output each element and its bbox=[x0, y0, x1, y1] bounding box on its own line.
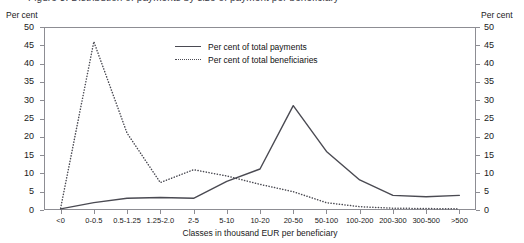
y-tick-label-right: 40 bbox=[484, 59, 506, 68]
x-tick-label: 200-300 bbox=[379, 217, 407, 225]
y-tick-label-left: 35 bbox=[12, 77, 34, 86]
x-tick-mark bbox=[227, 210, 228, 214]
x-tick-mark bbox=[459, 210, 460, 214]
x-tick-mark bbox=[160, 210, 161, 214]
legend-item-label: Per cent of total payments bbox=[208, 42, 307, 52]
x-tick-label: <0 bbox=[56, 217, 65, 225]
y-tick-mark-right bbox=[476, 192, 480, 193]
x-tick-mark bbox=[293, 210, 294, 214]
y-tick-label-right: 50 bbox=[484, 23, 506, 32]
y-tick-label-left: 40 bbox=[12, 59, 34, 68]
legend-item: Per cent of total beneficiaries bbox=[175, 53, 318, 66]
x-tick-mark bbox=[326, 210, 327, 214]
y-tick-mark-right bbox=[476, 64, 480, 65]
y-tick-label-left: 30 bbox=[12, 96, 34, 105]
y-tick-mark-left bbox=[40, 82, 44, 83]
y-tick-label-right: 5 bbox=[484, 187, 506, 196]
y-tick-label-left: 45 bbox=[12, 41, 34, 50]
x-tick-label: 5-10 bbox=[219, 217, 234, 225]
y-tick-label-right: 30 bbox=[484, 96, 506, 105]
x-tick-mark bbox=[94, 210, 95, 214]
y-tick-mark-left bbox=[40, 45, 44, 46]
x-tick-mark bbox=[61, 210, 62, 214]
x-tick-mark bbox=[260, 210, 261, 214]
x-tick-label: 10-20 bbox=[250, 217, 269, 225]
legend-swatch-dotted-icon bbox=[175, 56, 201, 64]
x-tick-mark bbox=[360, 210, 361, 214]
y-tick-mark-left bbox=[40, 155, 44, 156]
y-tick-label-left: 20 bbox=[12, 132, 34, 141]
y-tick-label-right: 45 bbox=[484, 41, 506, 50]
y-tick-mark-right bbox=[476, 82, 480, 83]
y-tick-mark-left bbox=[40, 137, 44, 138]
x-tick-label: 2-5 bbox=[188, 217, 199, 225]
y-tick-label-right: 35 bbox=[484, 77, 506, 86]
x-tick-mark bbox=[127, 210, 128, 214]
y-tick-label-left: 15 bbox=[12, 151, 34, 160]
x-tick-label: 100-200 bbox=[346, 217, 374, 225]
legend-item: Per cent of total payments bbox=[175, 40, 318, 53]
x-tick-mark bbox=[393, 210, 394, 214]
x-tick-label: >500 bbox=[451, 217, 468, 225]
x-tick-mark bbox=[426, 210, 427, 214]
chart-title-clipped: Figure 3. Distribution of payments by si… bbox=[0, 0, 524, 7]
y-tick-label-left: 50 bbox=[12, 23, 34, 32]
right-axis-unit-label: Per cent bbox=[481, 10, 513, 20]
y-tick-mark-right bbox=[476, 155, 480, 156]
y-tick-mark-left bbox=[40, 64, 44, 65]
y-tick-mark-right bbox=[476, 45, 480, 46]
y-tick-mark-right bbox=[476, 27, 480, 28]
x-axis-title: Classes in thousand EUR per beneficiary bbox=[183, 228, 338, 238]
x-tick-mark bbox=[194, 210, 195, 214]
chart-title-text: Figure 3. Distribution of payments by si… bbox=[28, 0, 339, 3]
y-tick-mark-left bbox=[40, 192, 44, 193]
y-tick-mark-left bbox=[40, 173, 44, 174]
y-tick-mark-right bbox=[476, 100, 480, 101]
y-tick-mark-left bbox=[40, 210, 44, 211]
x-tick-label: 1.25-2.0 bbox=[147, 217, 175, 225]
chart-container: Figure 3. Distribution of payments by si… bbox=[0, 0, 524, 243]
y-tick-mark-right bbox=[476, 137, 480, 138]
y-tick-label-right: 25 bbox=[484, 114, 506, 123]
y-tick-mark-right bbox=[476, 119, 480, 120]
y-tick-label-right: 15 bbox=[484, 151, 506, 160]
x-tick-label: 50-100 bbox=[315, 217, 338, 225]
y-tick-label-left: 0 bbox=[12, 206, 34, 215]
x-tick-label: 0-0.5 bbox=[85, 217, 102, 225]
y-tick-mark-right bbox=[476, 173, 480, 174]
y-tick-mark-left bbox=[40, 100, 44, 101]
y-tick-label-left: 5 bbox=[12, 187, 34, 196]
y-tick-label-right: 10 bbox=[484, 169, 506, 178]
legend-item-label: Per cent of total beneficiaries bbox=[208, 55, 318, 65]
y-tick-label-right: 20 bbox=[484, 132, 506, 141]
y-tick-mark-left bbox=[40, 119, 44, 120]
chart-legend: Per cent of total paymentsPer cent of to… bbox=[175, 40, 318, 66]
x-tick-label: 20-50 bbox=[284, 217, 303, 225]
left-axis-unit-label: Per cent bbox=[6, 10, 38, 20]
y-tick-label-left: 25 bbox=[12, 114, 34, 123]
y-tick-mark-left bbox=[40, 27, 44, 28]
x-tick-label: 300-500 bbox=[412, 217, 440, 225]
legend-swatch-solid-icon bbox=[175, 43, 201, 51]
y-tick-label-right: 0 bbox=[484, 206, 506, 215]
y-tick-mark-right bbox=[476, 210, 480, 211]
y-tick-label-left: 10 bbox=[12, 169, 34, 178]
x-tick-label: 0.5-1.25 bbox=[113, 217, 141, 225]
